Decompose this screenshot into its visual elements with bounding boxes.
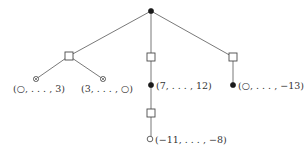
tree-diagram: (○, . . . , 3) (3, . . . , ○) (7, . . . … <box>0 0 305 154</box>
middle-open-circle-icon <box>147 136 153 142</box>
label-right-filled: (○, . . . , −13) <box>238 80 304 91</box>
edge-sq-left-leaf-ll <box>36 56 69 79</box>
label-mid-filled: (7, . . . , 12) <box>156 80 212 91</box>
edge-root-sq-left <box>69 11 151 56</box>
leaf-ll-crossed-circle-icon <box>33 76 38 81</box>
edge-sq-left-leaf-lr <box>69 56 103 79</box>
middle-lower-square-node-icon <box>147 109 155 117</box>
leaf-lr-crossed-circle-icon <box>100 76 105 81</box>
edge-root-sq-right <box>151 11 233 57</box>
nodes <box>33 8 237 141</box>
label-leaf-ll: (○, . . . , 3) <box>13 83 65 94</box>
edges <box>36 11 233 139</box>
left-square-node-icon <box>65 52 73 60</box>
label-leaf-lr: (3, . . . , ○) <box>81 83 133 94</box>
right-square-node-icon <box>229 53 237 61</box>
root-node-filled-circle-icon <box>148 8 153 13</box>
labels: (○, . . . , 3) (3, . . . , ○) (7, . . . … <box>13 80 304 145</box>
middle-filled-circle-icon <box>148 82 153 87</box>
middle-square-node-icon <box>147 53 155 61</box>
label-mid-open: (−11, . . . , −8) <box>155 134 227 145</box>
right-filled-circle-icon <box>230 82 235 87</box>
